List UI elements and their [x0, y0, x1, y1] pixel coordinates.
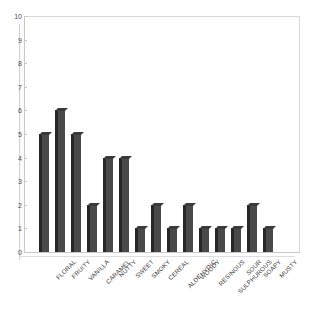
bar-slot: [132, 16, 148, 252]
bar-slot: [68, 16, 84, 252]
y-axis-tick-mark: [24, 252, 27, 253]
bar-slot: [116, 16, 132, 252]
bar-top-face: [199, 226, 212, 229]
y-axis-tick-mark: [24, 110, 27, 111]
y-axis-tick-label: 4: [2, 154, 22, 161]
bar-slot: [52, 16, 68, 252]
bar-top-face: [263, 226, 276, 229]
bar[interactable]: [87, 205, 97, 252]
bar-top-face: [87, 203, 100, 206]
bar-slot: [148, 16, 164, 252]
bar-slot: [260, 16, 276, 252]
bar-slot: [164, 16, 180, 252]
bar[interactable]: [215, 228, 225, 252]
bar-slot: [36, 16, 52, 252]
bar[interactable]: [151, 205, 161, 252]
y-axis-tick-label: 0: [2, 249, 22, 256]
bar[interactable]: [199, 228, 209, 252]
x-axis-line: [24, 252, 300, 253]
y-axis-tick-label: 2: [2, 201, 22, 208]
bar[interactable]: [71, 134, 81, 252]
bar[interactable]: [263, 228, 273, 252]
bar-slot: [84, 16, 100, 252]
bars-container: [24, 16, 300, 252]
bar-slot: [196, 16, 212, 252]
y-axis-tick-label: 10: [2, 13, 22, 20]
bar-top-face: [103, 156, 116, 159]
bar[interactable]: [183, 205, 193, 252]
y-axis-tick-mark: [24, 87, 27, 88]
bar-top-face: [39, 132, 52, 135]
bar[interactable]: [39, 134, 49, 252]
y-axis-tick-mark: [24, 158, 27, 159]
bar-top-face: [135, 226, 148, 229]
y-axis-ticks: 109876543210: [0, 0, 22, 311]
bar-top-face: [71, 132, 84, 135]
bar-slot: [244, 16, 260, 252]
bar-slot: [228, 16, 244, 252]
bar[interactable]: [103, 158, 113, 252]
y-axis-tick-label: 3: [2, 178, 22, 185]
bar-top-face: [231, 226, 244, 229]
y-axis-tick-mark: [24, 63, 27, 64]
bar-slot: [212, 16, 228, 252]
y-axis-tick-mark: [24, 134, 27, 135]
y-axis-tick-label: 6: [2, 107, 22, 114]
bar[interactable]: [135, 228, 145, 252]
bar[interactable]: [231, 228, 241, 252]
bar-chart: 109876543210 FLORALFRUITYVANILLACARAMELN…: [0, 0, 313, 311]
y-axis-tick-label: 9: [2, 36, 22, 43]
bar-top-face: [119, 156, 132, 159]
y-axis-tick-mark: [24, 205, 27, 206]
y-axis-tick-label: 1: [2, 225, 22, 232]
bar-slot: [100, 16, 116, 252]
bar[interactable]: [247, 205, 257, 252]
y-axis-tick-mark: [24, 40, 27, 41]
y-axis-tick-label: 8: [2, 60, 22, 67]
bar-slot: [180, 16, 196, 252]
y-axis-tick-mark: [24, 16, 27, 17]
y-axis-tick-label: 7: [2, 83, 22, 90]
x-axis-labels: FLORALFRUITYVANILLACARAMELNUTTYSWEETSMOK…: [24, 258, 313, 311]
bar-top-face: [183, 203, 196, 206]
bar[interactable]: [119, 158, 129, 252]
bar-top-face: [55, 108, 68, 111]
bar-top-face: [151, 203, 164, 206]
y-axis-tick-mark: [24, 181, 27, 182]
y-axis-tick-label: 5: [2, 131, 22, 138]
bar[interactable]: [167, 228, 177, 252]
bar-top-face: [247, 203, 260, 206]
plot-floor-front-edge: [19, 256, 295, 257]
y-axis-tick-mark: [24, 228, 27, 229]
bar-top-face: [167, 226, 180, 229]
bar[interactable]: [55, 110, 65, 252]
bar-top-face: [215, 226, 228, 229]
